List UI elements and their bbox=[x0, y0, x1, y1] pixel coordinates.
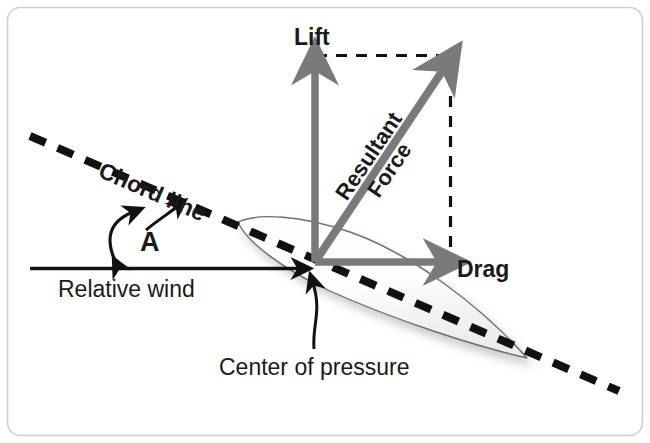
drag-label: Drag bbox=[457, 256, 509, 282]
airfoil-force-diagram: Lift Drag Resultant Force Chord line Rel… bbox=[0, 0, 650, 443]
center-of-pressure-label: Center of pressure bbox=[219, 354, 409, 380]
lift-label: Lift bbox=[294, 24, 330, 50]
angle-of-attack-label: A bbox=[140, 227, 160, 257]
diagram-canvas: Lift Drag Resultant Force Chord line Rel… bbox=[0, 0, 650, 443]
relative-wind-label: Relative wind bbox=[58, 276, 195, 302]
